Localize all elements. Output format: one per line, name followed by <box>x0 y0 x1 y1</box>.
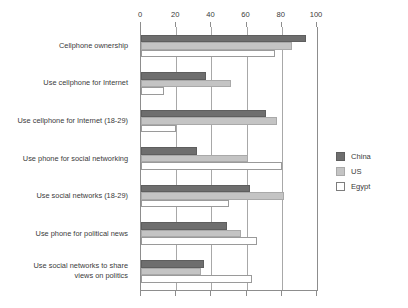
x-tick-mark-bottom-40 <box>210 291 211 296</box>
x-tick-label-40: 40 <box>206 10 214 19</box>
category-label: Use phone for social networking <box>0 140 134 178</box>
bar-china <box>141 110 266 118</box>
plot-area <box>140 27 318 291</box>
legend-swatch-icon-china <box>336 152 345 161</box>
x-tick-label-0: 0 <box>138 10 142 19</box>
bar-egypt <box>141 200 229 208</box>
legend: ChinaUSEgypt <box>336 150 404 195</box>
x-axis-tick-labels: 020406080100 <box>140 10 316 21</box>
x-tick-mark-bottom-0 <box>140 291 141 296</box>
category-label: Cellphone ownership <box>0 27 134 65</box>
legend-label: Egypt <box>351 182 370 191</box>
category-label: Use cellphone for Internet <box>0 65 134 103</box>
legend-swatch-icon-us <box>336 167 345 176</box>
x-axis-bottom-ticks <box>140 291 316 297</box>
bar-china <box>141 72 206 80</box>
category-label: Use phone for political news <box>0 215 134 253</box>
x-tick-mark-bottom-20 <box>175 291 176 296</box>
bar-group <box>141 140 317 178</box>
category-label: Use cellphone for Internet (18-29) <box>0 102 134 140</box>
bar-us <box>141 80 231 88</box>
bar-group <box>141 65 317 103</box>
bar-egypt <box>141 125 176 133</box>
bar-group <box>141 215 317 253</box>
bar-egypt <box>141 50 275 58</box>
bar-group <box>141 27 317 65</box>
legend-item-egypt[interactable]: Egypt <box>336 180 404 193</box>
x-tick-label-60: 60 <box>241 10 249 19</box>
bar-us <box>141 117 277 125</box>
legend-label: US <box>351 167 362 176</box>
legend-label: China <box>351 152 371 161</box>
x-tick-label-80: 80 <box>277 10 285 19</box>
bar-us <box>141 155 248 163</box>
legend-swatch-icon-egypt <box>336 182 345 191</box>
bar-group <box>141 252 317 290</box>
bar-china <box>141 222 227 230</box>
bar-groups <box>141 27 317 290</box>
bar-egypt <box>141 237 257 245</box>
bar-egypt <box>141 275 252 283</box>
bar-us <box>141 42 292 50</box>
x-tick-mark-bottom-100 <box>316 291 317 296</box>
bar-us <box>141 268 201 276</box>
bar-us <box>141 230 241 238</box>
x-tick-label-20: 20 <box>171 10 179 19</box>
y-axis-category-labels: Cellphone ownershipUse cellphone for Int… <box>0 27 134 290</box>
bar-egypt <box>141 87 164 95</box>
bar-china <box>141 35 306 43</box>
x-tick-mark-bottom-80 <box>281 291 282 296</box>
bar-china <box>141 260 204 268</box>
category-label: Use social networks (18-29) <box>0 177 134 215</box>
bar-china <box>141 147 197 155</box>
legend-item-china[interactable]: China <box>336 150 404 163</box>
bar-chart: 020406080100 Cellphone ownershipUse cell… <box>0 0 408 308</box>
bar-us <box>141 192 284 200</box>
bar-group <box>141 102 317 140</box>
category-label: Use social networks to share views on po… <box>0 252 134 290</box>
legend-item-us[interactable]: US <box>336 165 404 178</box>
bar-group <box>141 177 317 215</box>
bar-china <box>141 185 250 193</box>
x-tick-mark-bottom-60 <box>246 291 247 296</box>
x-tick-label-100: 100 <box>310 10 323 19</box>
bar-egypt <box>141 162 282 170</box>
